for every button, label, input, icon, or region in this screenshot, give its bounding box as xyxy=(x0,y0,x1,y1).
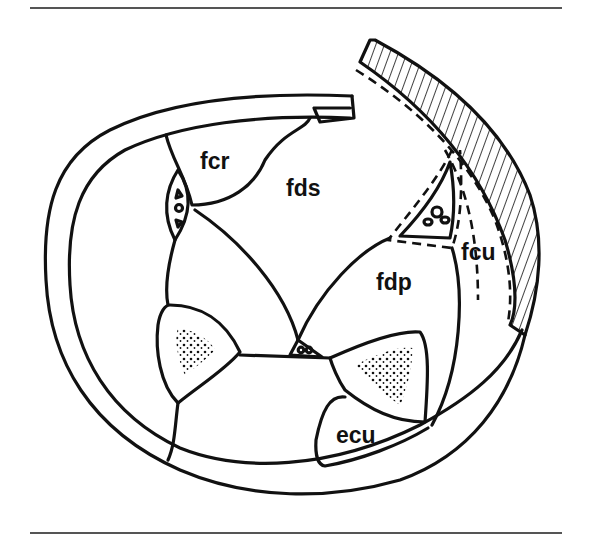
label-fds: fds xyxy=(286,175,321,201)
vessel-icon xyxy=(176,190,182,198)
cross-section-diagram: fcr fds fdp fcu ecu xyxy=(0,0,591,548)
vessel-icon xyxy=(424,219,432,225)
septum-line xyxy=(168,403,178,460)
label-fdp: fdp xyxy=(376,269,412,295)
septum-line xyxy=(167,240,175,305)
vessel-icon xyxy=(441,217,449,223)
label-fcu: fcu xyxy=(461,239,496,265)
vessel-icon xyxy=(306,347,312,353)
label-ecu: ecu xyxy=(336,422,376,448)
nerve-bundle xyxy=(400,162,454,238)
vessel-icon xyxy=(432,207,442,217)
septum-line xyxy=(432,248,459,425)
vessel-icon xyxy=(176,205,183,212)
label-fcr: fcr xyxy=(200,148,229,174)
vessel-icon xyxy=(298,347,304,353)
